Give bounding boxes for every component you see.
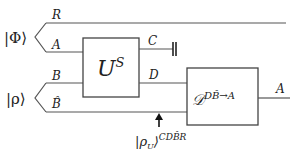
wire-A-out-label: A [275, 82, 285, 96]
phi-state-bracket [35, 23, 46, 52]
wire-R-label: R [51, 8, 61, 22]
arrow-up-icon [155, 113, 163, 127]
phi-state-label: |Φ⟩ [4, 29, 27, 47]
wire-C-label: C [148, 34, 157, 48]
wire-B-label: B [51, 69, 61, 83]
wire-D-label: D [148, 68, 159, 82]
discard-icon [173, 42, 176, 56]
rho-state-bracket [35, 83, 46, 112]
rho-state-label: |ρ⟩ [6, 90, 26, 108]
wire-A-in-label: A [51, 38, 61, 52]
wire-B-hat-label: B̂ [51, 96, 61, 111]
quantum-circuit-diagram: |Φ⟩ R A |ρ⟩ B B̂ US C D 𝒟DB̂→A A |ρU⟩CDB… [0, 0, 295, 157]
rho-U-annotation: |ρU⟩CDB̂R [135, 131, 187, 151]
